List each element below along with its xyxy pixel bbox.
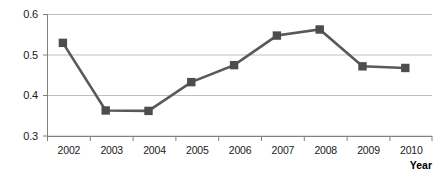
data-point-2010 [401,64,409,72]
x-axis-label-2002: 2002 [47,144,91,156]
x-axis-label-2008: 2008 [304,144,348,156]
data-point-2006 [230,61,238,69]
y-axis-label-1: 0.5 [8,49,38,61]
y-axis-label-2: 0.4 [8,89,38,101]
data-point-2008 [316,25,324,33]
data-point-2004 [144,107,152,115]
x-axis-label-2006: 2006 [218,144,262,156]
y-axis-label-3: 0.3 [8,130,38,142]
data-point-2009 [358,62,366,70]
data-point-2002 [59,39,67,47]
data-point-2005 [187,78,195,86]
x-axis-label-2003: 2003 [90,144,134,156]
data-series [59,25,410,115]
line-chart: 0.6 0.5 0.4 0.3 2002 2003 2004 2005 2006… [0,0,447,181]
x-axis-label-2005: 2005 [175,144,219,156]
data-point-2007 [273,31,281,39]
y-axis [43,14,48,136]
gridlines [47,15,432,137]
series-markers [59,25,410,115]
y-axis-label-0: 0.6 [8,8,38,20]
x-axis-title: Year [375,159,432,171]
x-axis-label-2010: 2010 [389,144,433,156]
x-axis-label-2009: 2009 [347,144,391,156]
data-point-2003 [102,106,110,114]
x-axis [47,136,432,141]
x-axis-label-2004: 2004 [133,144,177,156]
series-line [63,29,405,110]
x-axis-label-2007: 2007 [261,144,305,156]
